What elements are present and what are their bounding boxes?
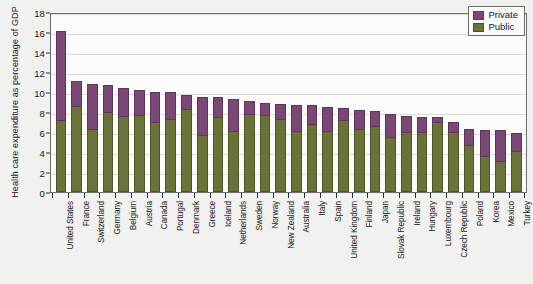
- stacked-bar: [165, 92, 176, 192]
- legend-label-private: Private: [488, 10, 518, 20]
- x-tick-mark: [131, 193, 132, 198]
- bar-segment-public: [87, 130, 98, 192]
- y-axis-title-text: Health care expenditure as percentage of…: [10, 6, 21, 198]
- x-label-slot: Austria: [131, 199, 147, 284]
- bar-segment-private: [464, 129, 475, 146]
- stacked-bar: [260, 103, 271, 192]
- bar-segment-public: [181, 110, 192, 192]
- stacked-bar: [511, 133, 522, 192]
- stacked-bar: [228, 99, 239, 192]
- x-label-slot: France: [68, 199, 84, 284]
- bar-segment-public: [118, 117, 129, 192]
- x-label-slot: Belgium: [115, 199, 131, 284]
- bar-segment-private: [322, 107, 333, 132]
- legend-swatch-private: [473, 11, 484, 20]
- y-tick-label: 16: [34, 28, 45, 39]
- y-tick-label: 10: [34, 88, 45, 99]
- bar-segment-public: [244, 115, 255, 192]
- bar-slot: [289, 14, 305, 192]
- x-label-slot: Hungary: [415, 199, 431, 284]
- x-label-slot: New Zealand: [273, 199, 289, 284]
- stacked-bar: [56, 31, 67, 192]
- x-label-slot: Greece: [194, 199, 210, 284]
- bar-slot: [53, 14, 69, 192]
- bar-segment-private: [417, 117, 428, 133]
- x-tick-mark: [99, 193, 100, 198]
- bar-segment-private: [197, 97, 208, 136]
- bar-segment-private: [165, 92, 176, 120]
- x-tick-mark: [509, 193, 510, 198]
- bar-segment-public: [385, 138, 396, 192]
- y-tick-label: 2: [40, 168, 45, 179]
- bar-segment-public: [275, 120, 286, 192]
- x-tick-mark: [84, 193, 85, 198]
- x-label-slot: Poland: [462, 199, 478, 284]
- bar-segment-private: [228, 99, 239, 132]
- bar-slot: [367, 14, 383, 192]
- stacked-bar: [244, 101, 255, 192]
- x-label-slot: Luxembourg: [430, 199, 446, 284]
- bar-slot: [461, 14, 477, 192]
- bar-segment-public: [165, 120, 176, 192]
- x-tick-mark: [241, 193, 242, 198]
- x-label-slot: Mexico: [493, 199, 509, 284]
- bar-slot: [100, 14, 116, 192]
- bar-segment-private: [150, 92, 161, 123]
- bar-slot: [398, 14, 414, 192]
- bar-segment-public: [464, 146, 475, 192]
- x-label-slot: Italy: [304, 199, 320, 284]
- x-tick-mark: [257, 193, 258, 198]
- bar-slot: [84, 14, 100, 192]
- stacked-bar: [71, 81, 82, 192]
- stacked-bar: [87, 84, 98, 192]
- legend-item-public: Public: [473, 22, 518, 32]
- bar-segment-public: [150, 123, 161, 192]
- bar-segment-public: [495, 162, 506, 192]
- x-label-slot: Czech Republic: [446, 199, 462, 284]
- x-tick-mark: [430, 193, 431, 198]
- bar-slot: [116, 14, 132, 192]
- legend-swatch-public: [473, 23, 484, 32]
- x-tick-mark: [68, 193, 69, 198]
- bar-slot: [69, 14, 85, 192]
- x-tick-mark: [162, 193, 163, 198]
- y-tick-label: 18: [34, 8, 45, 19]
- bar-segment-public: [432, 123, 443, 192]
- bar-segment-public: [213, 118, 224, 192]
- x-tick-mark: [415, 193, 416, 198]
- bar-segment-public: [134, 116, 145, 192]
- bar-slot: [446, 14, 462, 192]
- stacked-bar: [197, 97, 208, 192]
- bar-slot: [430, 14, 446, 192]
- y-tick-label: 4: [40, 148, 45, 159]
- x-label-slot: Iceland: [210, 199, 226, 284]
- bar-slot: [351, 14, 367, 192]
- x-label-slot: Australia: [288, 199, 304, 284]
- bar-segment-public: [354, 130, 365, 192]
- bar-segment-public: [448, 133, 459, 192]
- x-label-slot: Sweden: [241, 199, 257, 284]
- bar-segment-private: [181, 95, 192, 110]
- y-tick-label: 6: [40, 128, 45, 139]
- bar-segment-public: [228, 132, 239, 192]
- bar-segment-private: [401, 116, 412, 133]
- x-tick-mark: [178, 193, 179, 198]
- x-tick-mark: [524, 193, 525, 198]
- chart-container: Health care expenditure as percentage of…: [0, 0, 533, 284]
- bar-segment-public: [417, 133, 428, 192]
- bar-segment-private: [495, 130, 506, 162]
- legend-label-public: Public: [488, 22, 514, 32]
- y-tick-label: 0: [40, 188, 45, 199]
- x-label-slot: Slovak Republic: [383, 199, 399, 284]
- bar-segment-public: [103, 113, 114, 192]
- bar-segment-private: [71, 81, 82, 107]
- stacked-bar: [417, 117, 428, 192]
- x-label-slot: Canada: [147, 199, 163, 284]
- stacked-bar: [134, 90, 145, 192]
- x-label-slot: Ireland: [399, 199, 415, 284]
- bar-slot: [241, 14, 257, 192]
- bar-slot: [194, 14, 210, 192]
- stacked-bar: [432, 117, 443, 192]
- bar-segment-public: [197, 136, 208, 192]
- bar-slot: [320, 14, 336, 192]
